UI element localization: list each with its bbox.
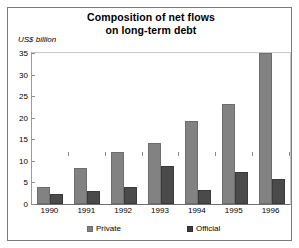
bar-private-1994	[185, 121, 198, 204]
bar-group	[185, 53, 211, 204]
y-tick-label: 20	[6, 113, 28, 122]
x-tick-mark	[215, 152, 216, 156]
legend-label-private: Private	[96, 224, 121, 233]
bar-official-1993	[161, 166, 174, 204]
plot-area: 05101520253035	[31, 52, 291, 205]
y-tick-mark	[32, 204, 35, 205]
y-tick-label: 0	[6, 200, 28, 209]
x-tick-label: 1993	[151, 206, 169, 215]
x-tick-label: 1995	[225, 206, 243, 215]
y-tick-label: 15	[6, 135, 28, 144]
chart-legend: Private Official	[31, 224, 289, 238]
bar-private-1991	[74, 168, 87, 204]
bar-group	[37, 53, 63, 204]
x-tick-label: 1994	[188, 206, 206, 215]
bar-group	[74, 53, 100, 204]
bar-official-1992	[124, 187, 137, 204]
x-tick-mark	[68, 152, 69, 156]
chart-title-line-1: Composition of net flows	[36, 11, 266, 24]
chart-title: Composition of net flows on long-term de…	[36, 11, 266, 37]
bar-private-1996	[259, 53, 272, 204]
y-axis-label: US$ billion	[18, 35, 56, 44]
bar-series-container	[32, 53, 290, 204]
x-tick-mark	[178, 152, 179, 156]
bar-group	[148, 53, 174, 204]
bar-official-1995	[235, 172, 248, 204]
x-tick-mark	[105, 152, 106, 156]
x-tick-label: 1991	[77, 206, 95, 215]
x-tick-mark	[252, 152, 253, 156]
x-tick-label: 1992	[114, 206, 132, 215]
x-tick-label: 1996	[262, 206, 280, 215]
bar-private-1993	[148, 143, 161, 204]
y-tick-label: 35	[6, 49, 28, 58]
x-tick-mark	[289, 152, 290, 156]
y-tick-label: 5	[6, 178, 28, 187]
bar-private-1992	[111, 152, 124, 204]
y-tick-label: 25	[6, 92, 28, 101]
x-tick-label: 1990	[41, 206, 59, 215]
x-tick-mark	[142, 152, 143, 156]
legend-swatch-private-icon	[87, 226, 93, 232]
legend-item-official: Official	[187, 224, 220, 233]
legend-label-official: Official	[196, 224, 220, 233]
y-tick-label: 10	[6, 156, 28, 165]
bar-official-1991	[87, 191, 100, 204]
bar-group	[111, 53, 137, 204]
legend-swatch-official-icon	[187, 226, 193, 232]
bar-official-1996	[272, 179, 285, 204]
bar-private-1990	[37, 187, 50, 204]
bar-private-1995	[222, 104, 235, 204]
bar-official-1990	[50, 194, 63, 204]
y-tick-label: 30	[6, 70, 28, 79]
legend-item-private: Private	[87, 224, 121, 233]
chart-title-line-2: on long-term debt	[36, 24, 266, 37]
chart-figure: Composition of net flows on long-term de…	[0, 0, 299, 248]
bar-group	[259, 53, 285, 204]
bar-official-1994	[198, 190, 211, 204]
bar-group	[222, 53, 248, 204]
